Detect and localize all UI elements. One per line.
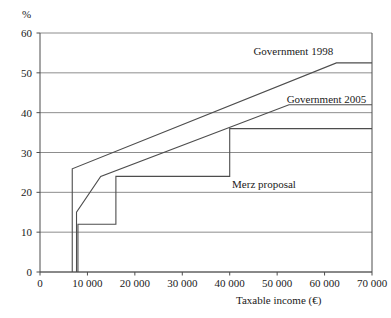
y-tick-label: 60: [6, 28, 32, 38]
series-label-merz-proposal: Merz proposal: [232, 178, 296, 190]
y-tick-label: 0: [6, 267, 32, 277]
series-label-government-2005: Government 2005: [287, 93, 367, 105]
series-line-government-2005: [77, 105, 372, 272]
y-tick-label: 40: [6, 108, 32, 118]
y-tick-label: 20: [6, 187, 32, 197]
series-label-government-1998: Government 1998: [253, 45, 333, 57]
x-tick-label: 70 000: [342, 278, 391, 288]
y-tick-label: 50: [6, 68, 32, 78]
x-axis-title: Taxable income (€): [236, 294, 321, 306]
y-tick-label: 10: [6, 227, 32, 237]
y-tick-label: 30: [6, 148, 32, 158]
tax-rate-chart: % 0102030405060 010 00020 00030 00040 00…: [0, 0, 391, 318]
series-line-merz-proposal: [78, 129, 372, 272]
